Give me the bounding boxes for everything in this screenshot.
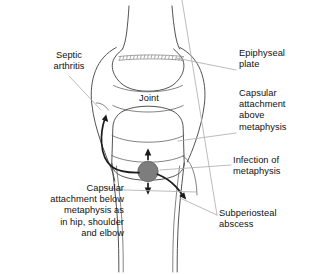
label-septic-arthritis: Septic arthritis — [30, 50, 108, 72]
leader-subperiosteal-abscess — [182, 0, 217, 215]
leader-capsular-below — [125, 190, 196, 192]
spread-to-joint-arrow — [101, 114, 139, 172]
osteomyelitis-diagram: Septic arthritis Joint Epiphyseal plate … — [0, 0, 309, 275]
upper-bone-shaft — [123, 6, 180, 49]
leader-infection-metaphysis — [160, 165, 231, 170]
spread-down-arrow — [145, 183, 152, 194]
epiphyseal-plate-hatching — [119, 55, 185, 61]
label-infection-of-metaphysis: Infection of metaphysis — [233, 155, 309, 177]
label-joint: Joint — [125, 93, 173, 104]
leader-capsular-above — [178, 133, 236, 141]
leader-septic-arthritis — [69, 76, 101, 110]
label-capsular-attachment-above-metaphysis: Capsular attachment above metaphysis — [239, 88, 309, 133]
leader-subperiosteal-abscess-2 — [180, 198, 217, 215]
label-epiphyseal-plate: Epiphyseal plate — [239, 48, 309, 70]
spread-up-arrow — [145, 148, 152, 159]
label-subperiosteal-abscess: Subperiosteal abscess — [219, 208, 309, 230]
label-capsular-attachment-below-metaphysis: Capsular attachment below metaphysis as … — [6, 183, 124, 239]
infection-focus-circle — [138, 161, 158, 181]
leader-epiphyseal-plate — [176, 58, 236, 70]
